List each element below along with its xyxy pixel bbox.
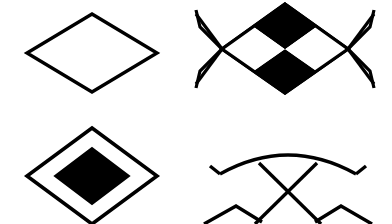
glyph-bowed-diamond	[190, 112, 392, 224]
glyph-plain-diamond	[0, 0, 196, 112]
bowed-notch-left	[204, 206, 262, 224]
bowed-arc-top	[220, 155, 356, 174]
glyph-checkered-diamond	[190, 0, 392, 112]
concentric-diamond-inner	[55, 148, 129, 204]
glyph-concentric-diamond	[0, 112, 196, 224]
bowed-arc-right-tail	[356, 166, 366, 174]
bowed-notch-right	[315, 206, 372, 224]
whisker-left-cross-lower	[196, 49, 222, 84]
whisker-left-cross-upper	[196, 14, 222, 49]
plain-diamond-outline	[27, 14, 157, 92]
bowed-cross-stroke-b	[255, 163, 317, 224]
whisker-right-cross-upper	[348, 14, 374, 49]
bowed-arc-left-tail	[210, 166, 220, 174]
glyph-canvas	[0, 0, 392, 224]
bowed-cross-stroke-a	[259, 163, 321, 224]
whisker-right-cross-lower	[348, 49, 374, 84]
